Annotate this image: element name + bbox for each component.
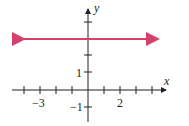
tick-label-x-neg3: −3	[32, 97, 45, 109]
tick-label-y-neg1: −1	[70, 101, 83, 113]
tick-label-x-2: 2	[117, 97, 123, 109]
x-axis-label: x	[164, 75, 169, 87]
x-axis	[12, 86, 166, 94]
coordinate-plane	[0, 0, 189, 126]
tick-label-y-1: 1	[76, 67, 82, 79]
y-axis-label: y	[94, 2, 99, 14]
y-axis	[84, 9, 92, 122]
